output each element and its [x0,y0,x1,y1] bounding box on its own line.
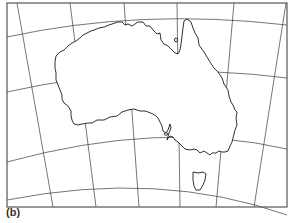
island [175,38,178,42]
meridian-line [17,3,53,207]
figure-label: (b) [6,206,20,218]
parallel-line [7,188,287,215]
island [164,133,168,135]
parallel-line [7,137,287,162]
map-canvas [0,0,289,223]
tasmania [193,172,206,190]
meridian-line [254,3,286,207]
australia-mainland [55,19,237,155]
